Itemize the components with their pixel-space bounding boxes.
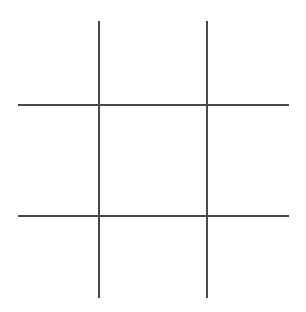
cell-2-0[interactable] bbox=[18, 217, 98, 298]
cell-0-0[interactable] bbox=[18, 21, 98, 104]
grid-line-horizontal-top bbox=[18, 104, 289, 106]
cell-2-1[interactable] bbox=[100, 217, 206, 298]
cell-0-1[interactable] bbox=[100, 21, 206, 104]
cell-1-0[interactable] bbox=[18, 106, 98, 215]
grid-line-vertical-left bbox=[98, 21, 100, 298]
cell-1-1[interactable] bbox=[100, 106, 206, 215]
grid-line-horizontal-bottom bbox=[18, 215, 289, 217]
grid-line-vertical-right bbox=[206, 21, 208, 298]
cell-1-2[interactable] bbox=[208, 106, 289, 215]
cell-0-2[interactable] bbox=[208, 21, 289, 104]
tic-tac-toe-board bbox=[0, 0, 306, 312]
cell-2-2[interactable] bbox=[208, 217, 289, 298]
